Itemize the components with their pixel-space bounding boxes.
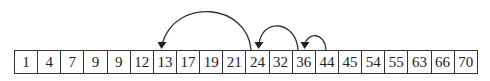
array-cell: 24: [246, 50, 269, 74]
array-cell: 36: [293, 50, 316, 74]
array-cell: 45: [339, 50, 362, 74]
array-cell: 9: [84, 50, 107, 74]
sorted-array: 1 4 7 9 9 12 13 17 19 21 24 32 36 44 45 …: [14, 50, 478, 74]
arrowhead-13-icon: [158, 42, 167, 49]
array-cell: 32: [270, 50, 293, 74]
array-cell: 9: [108, 50, 131, 74]
array-cell: 21: [223, 50, 246, 74]
array-cell: 70: [455, 50, 478, 74]
array-cell: 55: [385, 50, 408, 74]
array-cell: 44: [316, 50, 339, 74]
array-cell: 1: [15, 50, 38, 74]
array-cell: 19: [200, 50, 223, 74]
arrow-24-to-13: [162, 12, 251, 50]
arrowhead-36-icon: [301, 42, 310, 49]
array-cell: 12: [131, 50, 154, 74]
array-cell: 7: [61, 50, 84, 74]
array-cell: 4: [38, 50, 61, 74]
arrowhead-24-icon: [255, 42, 264, 49]
array-cell: 66: [432, 50, 455, 74]
arrow-36-to-24: [259, 26, 298, 50]
array-cell: 13: [154, 50, 177, 74]
array-cell: 54: [362, 50, 385, 74]
array-cell: 63: [408, 50, 431, 74]
array-cell: 17: [177, 50, 200, 74]
